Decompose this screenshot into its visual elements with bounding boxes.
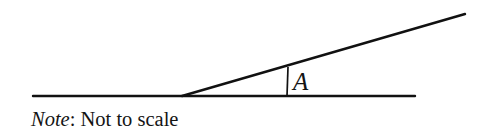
angle-figure-container: A Note: Not to scale (0, 0, 487, 138)
caption-note-emphasis: Note (31, 108, 70, 130)
caption-note-not-to-scale: Note: Not to scale (31, 108, 178, 132)
angle-marker-line (287, 67, 288, 96)
slanted-ray-line (182, 14, 465, 96)
caption-note-rest: : Not to scale (70, 108, 179, 130)
angle-label-a: A (291, 68, 309, 95)
